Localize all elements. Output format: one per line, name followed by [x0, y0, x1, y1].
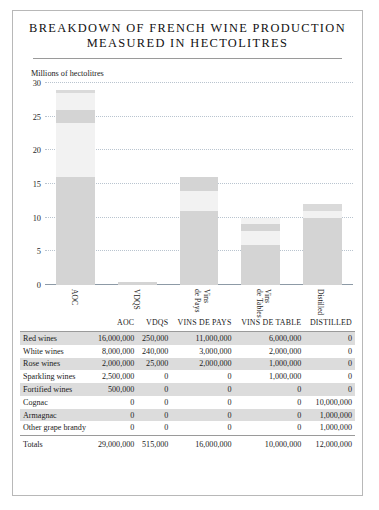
- bar-vins-de-pays: [180, 83, 219, 285]
- x-tick-label-vins-de-tables: Vins de Tables: [254, 289, 271, 318]
- bar-segment-white-wines: [56, 123, 95, 177]
- table-cell: 10,000,000: [304, 396, 355, 409]
- bar-segment-sparkling-wines: [56, 93, 95, 110]
- table-cell: 0: [137, 421, 171, 434]
- table-row: Red wines16,000,000250,00011,000,0006,00…: [20, 332, 355, 345]
- table-cell: 0: [304, 332, 355, 345]
- y-tick-label-5: 5: [37, 247, 41, 256]
- table-row: Armagnac00001,000,000: [20, 409, 355, 422]
- y-tick-label-10: 10: [33, 213, 41, 222]
- table-cell: 0: [137, 370, 171, 383]
- table-col-header-aoc: AOC: [93, 316, 138, 330]
- table-cell: 6,000,000: [235, 332, 305, 345]
- table-totals-cell: 16,000,000: [171, 436, 234, 451]
- data-table: AOCVDQSVINS DE PAYSVINS DE TABLEDISTILLE…: [20, 316, 355, 451]
- data-table-wrap: AOCVDQSVINS DE PAYSVINS DE TABLEDISTILLE…: [13, 316, 362, 451]
- bar-segment-red-wines: [118, 283, 157, 285]
- table-head: AOCVDQSVINS DE PAYSVINS DE TABLEDISTILLE…: [20, 316, 355, 332]
- y-tick-label-15: 15: [33, 180, 41, 189]
- bar-segment-sparkling-wines: [241, 218, 280, 225]
- bar-segment-armagnac: [303, 211, 342, 218]
- table-row: Cognac000010,000,000: [20, 396, 355, 409]
- bar-segment-red-wines: [180, 211, 219, 285]
- table-cell: 8,000,000: [93, 345, 138, 358]
- table-cell: 0: [93, 409, 138, 422]
- bar-segment-white-wines: [118, 282, 157, 284]
- table-col-header-row-label: [20, 316, 93, 330]
- y-axis-title: Millions of hectolitres: [31, 69, 104, 78]
- y-tick-label-20: 20: [33, 146, 41, 155]
- bar-segment-rose-wines: [56, 110, 95, 123]
- table-cell: 250,000: [137, 332, 171, 345]
- y-tick-label-0: 0: [37, 281, 41, 290]
- table-row-label: Fortified wines: [20, 383, 93, 396]
- table-totals-cell: 29,000,000: [93, 436, 138, 451]
- bar-segment-cognac: [303, 218, 342, 285]
- bar-segment-other-grape-brandy: [303, 204, 342, 211]
- table-row: Rose wines2,000,00025,0002,000,0001,000,…: [20, 358, 355, 371]
- bar-segment-rose-wines: [180, 177, 219, 190]
- y-tick-label-25: 25: [33, 112, 41, 121]
- table-cell: 0: [235, 383, 305, 396]
- table-cell: 0: [171, 409, 234, 422]
- table-totals-label: Totals: [20, 436, 93, 451]
- table-row: Fortified wines500,0000000: [20, 383, 355, 396]
- table-totals-row: Totals29,000,000515,00016,000,00010,000,…: [20, 436, 355, 451]
- table-header-row: AOCVDQSVINS DE PAYSVINS DE TABLEDISTILLE…: [20, 316, 355, 330]
- table-cell: 0: [171, 396, 234, 409]
- table-col-header-vins-de-table: VINS DE TABLE: [235, 316, 305, 330]
- table-row-label: Armagnac: [20, 409, 93, 422]
- x-tick-label-vdqs: VDQS: [131, 289, 139, 310]
- title-divider: [33, 58, 342, 59]
- bar-segment-red-wines: [56, 177, 95, 285]
- table-cell: 2,000,000: [235, 345, 305, 358]
- table-row-label: Rose wines: [20, 358, 93, 371]
- table-cell: 2,500,000: [93, 370, 138, 383]
- bar-vins-de-tables: [241, 83, 280, 285]
- chart-card: BREAKDOWN OF FRENCH WINE PRODUCTION MEAS…: [12, 10, 363, 496]
- table-cell: 0: [235, 409, 305, 422]
- table-row-label: Other grape brandy: [20, 421, 93, 434]
- table-row-label: Cognac: [20, 396, 93, 409]
- chart: Millions of hectolitres 051015202530 AOC…: [13, 65, 362, 333]
- table-col-header-vdqs: VDQS: [137, 316, 171, 330]
- table-cell: 25,000: [137, 358, 171, 371]
- table-cell: 0: [171, 370, 234, 383]
- table-cell: 0: [304, 383, 355, 396]
- table-cell: 1,000,000: [235, 370, 305, 383]
- table-cell: 0: [171, 383, 234, 396]
- table-cell: 1,000,000: [304, 409, 355, 422]
- table-col-header-vins-de-pays: VINS DE PAYS: [171, 316, 234, 330]
- table-cell: 11,000,000: [171, 332, 234, 345]
- table-totals-cell: 12,000,000: [304, 436, 355, 451]
- bar-segment-fortified-wines: [56, 90, 95, 93]
- table-cell: 0: [235, 396, 305, 409]
- plot-area: 051015202530: [45, 83, 353, 285]
- page-title-line-2: MEASURED IN HECTOLITRES: [19, 36, 356, 51]
- table-cell: 0: [235, 421, 305, 434]
- table-totals-cell: 10,000,000: [235, 436, 305, 451]
- table-cell: 3,000,000: [171, 345, 234, 358]
- x-tick-label-distilled: Distilled: [316, 289, 324, 315]
- table-row: Other grape brandy00001,000,000: [20, 421, 355, 434]
- bar-segment-rose-wines: [241, 224, 280, 231]
- table-row: Sparkling wines2,500,000001,000,0000: [20, 370, 355, 383]
- title-block: BREAKDOWN OF FRENCH WINE PRODUCTION MEAS…: [13, 11, 362, 65]
- table-body: Red wines16,000,000250,00011,000,0006,00…: [20, 332, 355, 451]
- table-cell: 0: [137, 396, 171, 409]
- table-row-label: White wines: [20, 345, 93, 358]
- page-title-line-1: BREAKDOWN OF FRENCH WINE PRODUCTION: [19, 21, 356, 36]
- table-cell: 500,000: [93, 383, 138, 396]
- bar-aoc: [56, 83, 95, 285]
- table-col-header-distilled: DISTILLED: [304, 316, 355, 330]
- table-cell: 1,000,000: [235, 358, 305, 371]
- table-cell: 0: [171, 421, 234, 434]
- bar-segment-red-wines: [241, 245, 280, 285]
- table-row-label: Sparkling wines: [20, 370, 93, 383]
- table-cell: 0: [304, 358, 355, 371]
- x-tick-label-aoc: AOC: [70, 289, 78, 305]
- bar-segment-white-wines: [180, 191, 219, 211]
- table-cell: 1,000,000: [304, 421, 355, 434]
- bar-vdqs: [118, 83, 157, 285]
- table-cell: 0: [137, 383, 171, 396]
